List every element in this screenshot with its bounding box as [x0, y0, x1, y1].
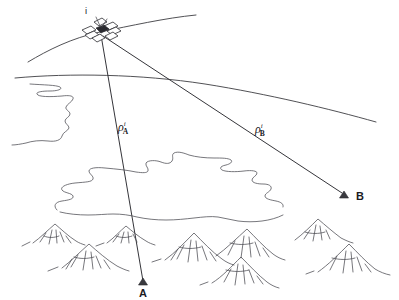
station-b-label: B: [356, 190, 364, 202]
rho-sub-b: B: [260, 129, 265, 138]
satellite-label: i: [85, 5, 87, 16]
mountain-range: [216, 229, 285, 260]
diagram-canvas: i A B ρiA ρiB: [0, 0, 399, 300]
mountain-range: [96, 226, 155, 246]
terrain-contour: [55, 152, 283, 210]
mountain-range: [295, 219, 353, 243]
mountain-range: [306, 244, 390, 275]
mountain-range: [200, 257, 279, 288]
station-a-label: A: [139, 287, 147, 299]
ray-to-a: [101, 35, 143, 281]
range-label-b: ρiB: [255, 123, 265, 135]
ray-to-b: [103, 36, 342, 193]
mountain-range: [48, 244, 129, 271]
ionosphere-curve: [15, 75, 376, 122]
satellite-icon: [82, 17, 121, 42]
mountain-range: [22, 224, 85, 246]
terrain-contour-lower: [60, 212, 283, 222]
range-label-a: ρiA: [118, 121, 128, 133]
coastline-outline: [12, 84, 73, 145]
rho-sub-a: A: [123, 127, 128, 136]
station-a-marker: [139, 278, 148, 285]
satellite-geometry-figure: i A B: [0, 0, 399, 300]
mountain-range: [152, 233, 234, 265]
